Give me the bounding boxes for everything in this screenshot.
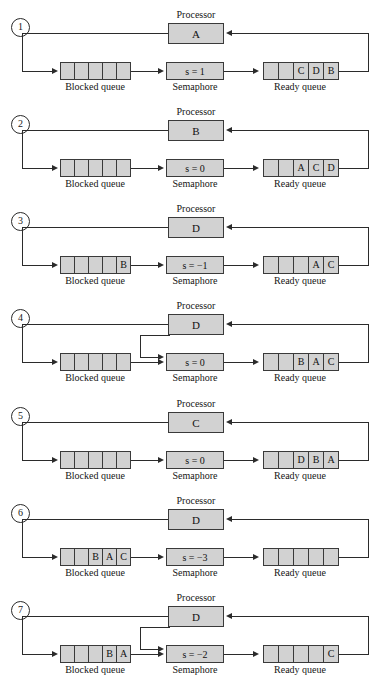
semaphore-arrow-from-processor: [158, 354, 164, 360]
semaphore-arrow-from-blocked: [158, 554, 164, 560]
blocked-queue-cell: [75, 646, 89, 662]
blocked-queue-label: Blocked queue: [50, 275, 140, 286]
left-down-line: [22, 616, 23, 654]
ready-queue-cell: D: [324, 160, 338, 176]
processor-label: Processor: [168, 495, 224, 506]
blocked-queue: [60, 451, 131, 469]
ready-queue-cell: B: [294, 354, 309, 370]
blocked-queue-arrow: [52, 262, 58, 268]
processor-drop-line: [140, 627, 141, 649]
ready-queue-cell: A: [309, 257, 324, 273]
ready-queue-cell: [279, 63, 294, 79]
blocked-queue-arrow: [52, 651, 58, 657]
blocked-queue-cell: [103, 354, 117, 370]
blocked-queue-arrow: [52, 165, 58, 171]
blocked-to-semaphore-line: [131, 557, 160, 558]
blocked-queue-cell: A: [103, 549, 117, 565]
blocked-queue-cell: [75, 257, 89, 273]
blocked-to-semaphore-line: [131, 654, 160, 655]
blocked-to-semaphore-line: [131, 460, 160, 461]
ready-queue: ACD: [263, 159, 339, 177]
ready-queue-cell: [294, 646, 309, 662]
processor-drop-line: [140, 335, 141, 357]
left-to-blocked-line: [22, 265, 52, 266]
blocked-queue-cell: B: [117, 257, 130, 273]
step-number-2: 2: [11, 115, 30, 134]
ready-queue-label: Ready queue: [255, 470, 345, 481]
left-down-line: [22, 324, 23, 362]
semaphore-to-ready-line: [224, 460, 254, 461]
ready-queue-arrow: [253, 457, 259, 463]
figure-canvas: 1ProcessorSemaphoreBlocked queueReady qu…: [0, 0, 388, 686]
blocked-queue-cell: [117, 160, 130, 176]
right-up-line: [368, 324, 369, 362]
blocked-queue: BAC: [60, 548, 131, 566]
blocked-queue-label: Blocked queue: [50, 81, 140, 92]
ready-to-right-line: [339, 168, 369, 169]
processor-to-left-line: [22, 519, 168, 520]
blocked-queue-label: Blocked queue: [50, 372, 140, 383]
right-to-processor-line: [232, 324, 369, 325]
semaphore-label: Semaphore: [160, 81, 230, 92]
ready-queue: CDB: [263, 62, 339, 80]
blocked-queue-cell: [61, 646, 75, 662]
right-to-processor-line: [232, 130, 369, 131]
processor-arrow: [226, 419, 232, 425]
semaphore-to-ready-line: [224, 654, 254, 655]
processor-label: Processor: [168, 9, 224, 20]
ready-queue-label: Ready queue: [255, 664, 345, 675]
blocked-queue-cell: [89, 257, 103, 273]
ready-queue-label: Ready queue: [255, 372, 345, 383]
ready-queue-cell: [309, 549, 324, 565]
left-to-blocked-line: [22, 654, 52, 655]
ready-queue-cell: [264, 160, 279, 176]
blocked-queue: [60, 159, 131, 177]
ready-queue-cell: D: [309, 63, 324, 79]
ready-queue-cell: [279, 646, 294, 662]
panel-step-5: 5ProcessorSemaphoreBlocked queueReady qu…: [0, 389, 388, 486]
semaphore-box: s = −3: [166, 548, 224, 566]
processor-box: D: [168, 217, 224, 238]
blocked-queue-cell: B: [89, 549, 103, 565]
processor-to-left-line: [22, 227, 168, 228]
left-down-line: [22, 519, 23, 557]
processor-to-left-line: [22, 422, 168, 423]
ready-queue-cell: [264, 354, 279, 370]
left-down-line: [22, 227, 23, 265]
blocked-queue-cell: [75, 160, 89, 176]
right-up-line: [368, 130, 369, 168]
semaphore-arrow-from-blocked: [158, 262, 164, 268]
blocked-queue-cell: [75, 549, 89, 565]
semaphore-to-ready-line: [224, 71, 254, 72]
semaphore-label: Semaphore: [160, 567, 230, 578]
ready-queue-cell: [279, 160, 294, 176]
blocked-queue-cell: B: [103, 646, 117, 662]
ready-queue-cell: [294, 549, 309, 565]
left-down-line: [22, 130, 23, 168]
ready-queue: DBA: [263, 451, 339, 469]
ready-queue-cell: C: [324, 354, 338, 370]
blocked-to-semaphore-line: [131, 71, 160, 72]
semaphore-label: Semaphore: [160, 372, 230, 383]
step-number-1: 1: [11, 18, 30, 37]
ready-queue-label: Ready queue: [255, 178, 345, 189]
processor-to-left-line: [22, 130, 168, 131]
blocked-queue-cell: [103, 63, 117, 79]
semaphore-label: Semaphore: [160, 664, 230, 675]
blocked-queue: BA: [60, 645, 131, 663]
ready-to-right-line: [339, 557, 369, 558]
processor-to-left-line: [22, 33, 168, 34]
ready-queue-cell: C: [294, 63, 309, 79]
right-to-processor-line: [232, 519, 369, 520]
right-to-processor-line: [232, 616, 369, 617]
semaphore-arrow-from-blocked: [158, 165, 164, 171]
processor-label: Processor: [168, 592, 224, 603]
panel-step-3: 3ProcessorSemaphoreBlocked queueReady qu…: [0, 194, 388, 291]
semaphore-label: Semaphore: [160, 178, 230, 189]
blocked-queue: B: [60, 256, 131, 274]
step-number-7: 7: [11, 601, 30, 620]
blocked-queue-label: Blocked queue: [50, 567, 140, 578]
ready-to-right-line: [339, 654, 369, 655]
ready-to-right-line: [339, 71, 369, 72]
semaphore-to-ready-line: [224, 265, 254, 266]
